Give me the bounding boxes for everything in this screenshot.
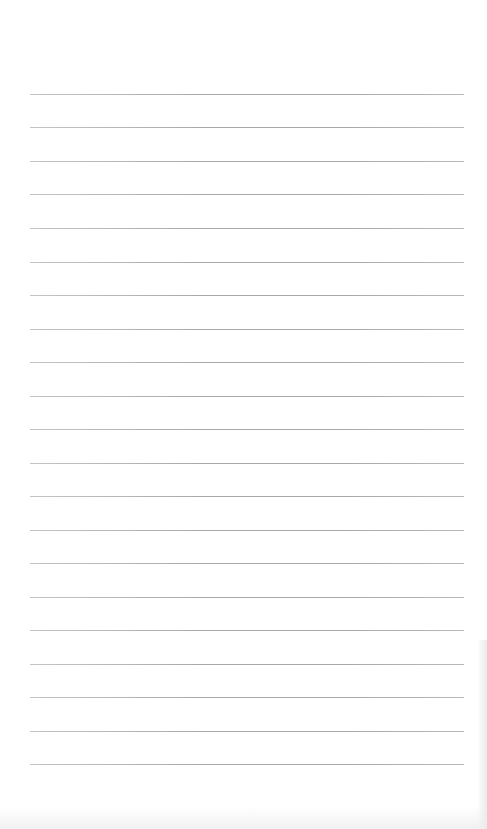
ruled-line <box>30 329 464 330</box>
ruled-line <box>30 295 464 296</box>
page-edge-shadow <box>477 640 487 829</box>
lined-paper-page <box>0 0 487 829</box>
ruled-line <box>30 429 464 430</box>
ruled-line <box>30 496 464 497</box>
ruled-line <box>30 463 464 464</box>
ruled-line <box>30 664 464 665</box>
ruled-line <box>30 94 464 95</box>
ruled-line <box>30 563 464 564</box>
ruled-line <box>30 764 464 765</box>
ruled-line <box>30 194 464 195</box>
ruled-line <box>30 362 464 363</box>
ruled-line <box>30 228 464 229</box>
ruled-line <box>30 697 464 698</box>
ruled-line <box>30 731 464 732</box>
ruled-line <box>30 161 464 162</box>
ruled-line <box>30 127 464 128</box>
ruled-line <box>30 630 464 631</box>
ruled-line <box>30 597 464 598</box>
ruled-line <box>30 262 464 263</box>
bottom-edge-shading <box>0 807 487 829</box>
ruled-line <box>30 530 464 531</box>
ruled-line <box>30 396 464 397</box>
